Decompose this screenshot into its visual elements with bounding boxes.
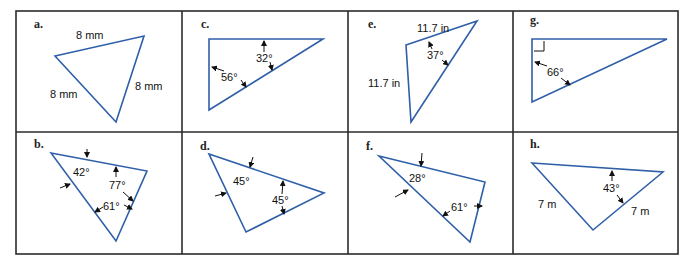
side-length-right: 8 mm	[135, 80, 163, 92]
side-length-top: 8 mm	[76, 29, 104, 41]
panel-b: b. 42° 77° 61°	[34, 137, 147, 241]
isosceles-triangle	[406, 21, 477, 122]
angle-label-45-right: 45°	[272, 194, 289, 206]
equilateral-triangle	[55, 36, 144, 122]
angle-arrow	[282, 181, 283, 194]
angle-arrow	[429, 42, 432, 49]
scalene-triangle	[379, 156, 485, 242]
panel-c: c. 32° 56°	[201, 17, 323, 110]
angle-arrow	[395, 190, 408, 197]
isosceles-triangle	[532, 163, 663, 230]
panel-label: a.	[34, 17, 43, 31]
side-length-left: 7 m	[538, 198, 556, 210]
grid-frame	[16, 11, 678, 254]
panel-f: f. 28° 61°	[366, 139, 485, 242]
angle-label-77: 77°	[109, 179, 126, 191]
angle-arrow	[421, 153, 422, 166]
scalene-triangle	[51, 153, 147, 241]
angle-label-61: 61°	[103, 200, 120, 212]
angle-arrow	[250, 157, 253, 167]
angle-label-45-top: 45°	[233, 175, 250, 187]
angle-label-61: 61°	[451, 201, 468, 213]
side-length-left: 8 mm	[50, 88, 78, 100]
angle-arrow	[60, 184, 70, 188]
angle-label-37: 37°	[427, 49, 444, 61]
angle-arrow	[617, 195, 623, 203]
triangle-exercise-grid: a. 8 mm 8 mm 8 mm c. 32° 56° e. 11.7 in …	[0, 0, 696, 266]
panel-label: f.	[366, 139, 373, 153]
angle-arrow	[95, 207, 103, 212]
angle-arrow	[561, 78, 570, 85]
angle-arrow	[215, 193, 226, 196]
panel-label: b.	[34, 137, 44, 151]
side-length-right: 7 m	[631, 205, 649, 217]
side-length-left: 11.7 in	[368, 77, 400, 89]
right-angle-marker-icon	[534, 41, 544, 51]
angle-arrow	[443, 211, 450, 216]
angle-arrow	[535, 62, 547, 66]
angle-label-56: 56°	[221, 71, 238, 83]
angle-label-42: 42°	[73, 166, 90, 178]
angle-label-32: 32°	[256, 52, 273, 64]
panel-label: g.	[530, 13, 539, 27]
panel-g: g. 66°	[530, 13, 667, 102]
right-isosceles-triangle	[209, 154, 324, 232]
panel-a: a. 8 mm 8 mm 8 mm	[34, 17, 163, 122]
angle-label-66: 66°	[547, 66, 564, 78]
panel-label: h.	[530, 137, 540, 151]
side-length-top: 11.7 in	[417, 22, 449, 34]
angle-label-43: 43°	[603, 182, 620, 194]
angle-arrow	[241, 80, 246, 87]
angle-label-28: 28°	[409, 172, 426, 184]
panel-h: h. 43° 7 m 7 m	[530, 137, 663, 230]
panel-e: e. 11.7 in 11.7 in 37°	[368, 17, 477, 122]
panel-d: d. 45° 45°	[200, 139, 324, 232]
panel-label: e.	[368, 17, 376, 31]
panel-label: d.	[200, 139, 210, 153]
panel-label: c.	[201, 17, 209, 31]
angle-arrow	[123, 192, 133, 201]
